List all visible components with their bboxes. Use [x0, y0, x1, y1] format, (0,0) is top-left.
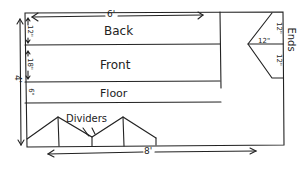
panel-floor-label: Floor	[100, 87, 127, 100]
total-height-label: 4'	[13, 75, 23, 83]
panel-back-label: Back	[104, 24, 133, 38]
top-width-label: 6'	[107, 9, 115, 19]
outer-frame	[25, 12, 284, 147]
ends-top-dim: 12"	[275, 22, 283, 34]
floor-height-label: 6"	[27, 88, 35, 96]
back-height-label: 12"	[26, 25, 34, 37]
ends-label: Ends	[286, 27, 297, 51]
panel-front-label: Front	[100, 58, 130, 72]
ends-bottom-dim: 12"	[275, 54, 283, 66]
ends-middle-dim: 12"	[258, 37, 270, 45]
dividers-label: Dividers	[66, 113, 107, 124]
bottom-width-label: 8'	[144, 146, 152, 156]
sketch-lines	[0, 0, 308, 171]
front-height-label: 18"	[26, 58, 34, 70]
